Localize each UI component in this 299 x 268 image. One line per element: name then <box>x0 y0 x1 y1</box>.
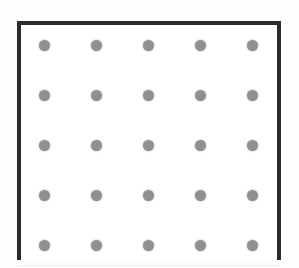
grid-dot <box>143 90 154 101</box>
grid-dot <box>195 140 206 151</box>
grid-dot <box>143 190 154 201</box>
grid-dot <box>91 40 102 51</box>
grid-dot <box>39 190 50 201</box>
grid-dot <box>195 190 206 201</box>
grid-dot <box>143 140 154 151</box>
grid-dot <box>39 140 50 151</box>
grid-dot <box>195 40 206 51</box>
grid-dot <box>39 40 50 51</box>
grid-dot <box>91 240 102 251</box>
grid-dot <box>247 140 258 151</box>
grid-dot <box>91 90 102 101</box>
grid-dot <box>195 90 206 101</box>
grid-dot <box>91 140 102 151</box>
grid-dot <box>143 240 154 251</box>
grid-dot <box>195 240 206 251</box>
dot-grid-figure <box>0 0 299 268</box>
grid-dot <box>39 240 50 251</box>
grid-dot <box>247 40 258 51</box>
grid-dot <box>91 190 102 201</box>
grid-dot <box>247 190 258 201</box>
dot-grid <box>0 0 299 268</box>
grid-dot <box>143 40 154 51</box>
grid-dot <box>247 240 258 251</box>
grid-dot <box>39 90 50 101</box>
grid-dot <box>247 90 258 101</box>
